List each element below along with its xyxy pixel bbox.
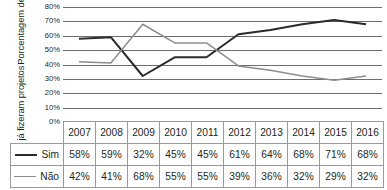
legend-entry-sim: Sim [11, 144, 64, 166]
table-corner-cell [11, 122, 64, 144]
table-cell: 64% [256, 144, 288, 166]
table-cell: 36% [256, 166, 288, 188]
table-header-year: 2008 [96, 122, 128, 144]
legend-entry-não: Não [11, 166, 64, 188]
table-cell: 42% [64, 166, 96, 188]
table-cell: 45% [192, 144, 224, 166]
y-axis-tick-label: 80% [45, 3, 60, 11]
legend-line-swatch-icon [15, 154, 37, 156]
table-cell: 68% [352, 144, 384, 166]
legend-line-swatch-icon [14, 176, 36, 177]
y-axis-tick-label: 10% [45, 104, 60, 112]
table-header-year: 2012 [224, 122, 256, 144]
table-cell: 59% [96, 144, 128, 166]
table-header-year: 2009 [128, 122, 160, 144]
table-cell: 71% [320, 144, 352, 166]
series-layer [63, 7, 382, 122]
plot-area: 80%70%60%50%40%30%20%10%0% [63, 7, 382, 122]
table-cell: 32% [352, 166, 384, 188]
y-axis-tick-label: 70% [45, 17, 60, 25]
table-cell: 41% [96, 166, 128, 188]
table-cell: 55% [192, 166, 224, 188]
table-cell: 68% [128, 166, 160, 188]
y-axis-title-line-1: Porcentagem de alunos [15, 0, 26, 65]
legend-label: Não [40, 171, 59, 182]
table-header-year: 2010 [160, 122, 192, 144]
table-cell: 32% [128, 144, 160, 166]
table-row: Não42%41%68%55%55%39%36%32%29%32% [11, 166, 384, 188]
table-header-year: 2011 [192, 122, 224, 144]
table-cell: 32% [288, 166, 320, 188]
table-header-row: 2007200820092010201120122013201420152016 [11, 122, 384, 144]
data-table: 2007200820092010201120122013201420152016… [10, 121, 384, 188]
y-axis-title: Porcentagem de alunos que já fizeram pro… [0, 0, 40, 130]
y-axis-tick-label: 20% [45, 89, 60, 97]
table-cell: 45% [160, 144, 192, 166]
table-cell: 68% [288, 144, 320, 166]
y-axis-tick-label: 30% [45, 75, 60, 83]
y-axis-tick-label: 60% [45, 32, 60, 40]
table-header-year: 2016 [352, 122, 384, 144]
table-cell: 55% [160, 166, 192, 188]
table-header-year: 2015 [320, 122, 352, 144]
chart-figure: Porcentagem de alunos que já fizeram pro… [0, 0, 387, 190]
table-header-year: 2007 [64, 122, 96, 144]
table-cell: 39% [224, 166, 256, 188]
legend-label: Sim [41, 149, 59, 160]
table-header-year: 2013 [256, 122, 288, 144]
y-axis-tick-label: 40% [45, 61, 60, 69]
data-table-wrap: 2007200820092010201120122013201420152016… [10, 121, 383, 188]
series-line-sim [79, 20, 366, 76]
table-row: Sim58%59%32%45%45%61%64%68%71%68% [11, 144, 384, 166]
table-cell: 58% [64, 144, 96, 166]
y-axis-tick-label: 50% [45, 46, 60, 54]
table-cell: 29% [320, 166, 352, 188]
table-cell: 61% [224, 144, 256, 166]
table-header-year: 2014 [288, 122, 320, 144]
